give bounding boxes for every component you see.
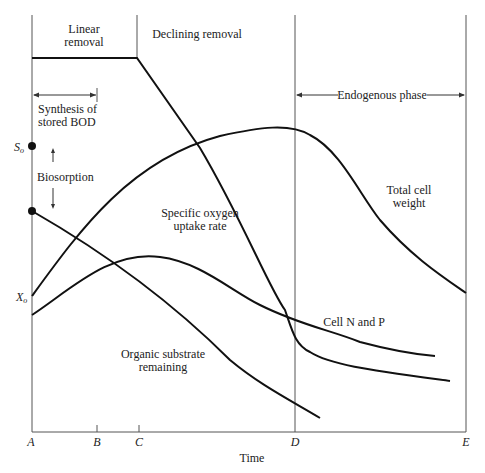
curve-organic-substrate [32,211,320,418]
tick-label-b: B [93,435,101,449]
label-oxygen-2: uptake rate [174,219,227,233]
x-axis-title: Time [240,451,265,465]
label-total-cell-1: Total cell [387,183,432,197]
tick-label-a: A [26,435,35,449]
arrowhead-right [459,93,465,98]
label-stored-bod: stored BOD [38,115,96,129]
label-s-o: So [14,140,24,155]
s-o-point [28,142,36,150]
curve-cell-n-p [32,256,435,356]
activated-sludge-diagram: Linear removal Declining removal Endogen… [0,0,485,473]
label-removal: removal [64,35,104,49]
label-endogenous-phase: Endogenous phase [337,88,427,102]
arrowhead-right [90,93,96,98]
label-x-o: Xo [15,290,27,305]
label-total-cell-2: weight [393,196,426,210]
arrowhead-left [33,93,39,98]
tick-label-d: D [290,435,300,449]
label-biosorption: Biosorption [37,170,94,184]
label-substrate-2: remaining [139,360,188,374]
label-oxygen-1: Specific oxygen [161,206,239,220]
arrowhead-up [51,148,55,153]
label-declining-removal: Declining removal [152,27,242,41]
arrowhead-left [296,93,302,98]
tick-label-e: E [461,435,470,449]
tick-label-c: C [135,435,144,449]
label-substrate-1: Organic substrate [121,347,205,361]
label-linear: Linear [68,22,99,36]
arrowhead-down [51,204,55,209]
label-synthesis: Synthesis of [38,102,97,116]
substrate-start-point [28,207,36,215]
label-cell-n-p: Cell N and P [323,315,385,329]
